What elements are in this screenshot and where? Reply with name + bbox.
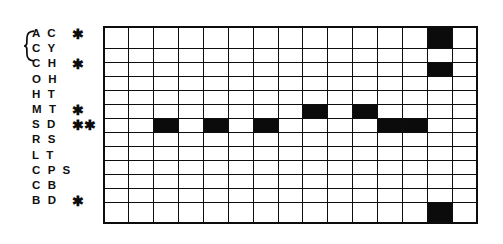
matrix-cell-empty[interactable] xyxy=(303,146,328,160)
matrix-cell-empty[interactable] xyxy=(328,202,353,223)
matrix-cell-empty[interactable] xyxy=(402,27,427,48)
matrix-cell-empty[interactable] xyxy=(253,132,278,146)
matrix-cell-empty[interactable] xyxy=(377,104,402,118)
matrix-cell-empty[interactable] xyxy=(427,48,452,62)
matrix-cell-empty[interactable] xyxy=(203,104,228,118)
matrix-cell-empty[interactable] xyxy=(303,118,328,132)
matrix-cell-empty[interactable] xyxy=(228,62,253,76)
matrix-cell-empty[interactable] xyxy=(228,146,253,160)
matrix-cell-empty[interactable] xyxy=(402,48,427,62)
matrix-cell-empty[interactable] xyxy=(104,174,129,188)
matrix-cell-empty[interactable] xyxy=(104,132,129,146)
matrix-cell-empty[interactable] xyxy=(129,104,154,118)
matrix-cell-empty[interactable] xyxy=(179,202,204,223)
matrix-cell-empty[interactable] xyxy=(228,174,253,188)
matrix-cell-empty[interactable] xyxy=(353,160,378,174)
matrix-cell-empty[interactable] xyxy=(353,76,378,90)
matrix-cell-empty[interactable] xyxy=(228,160,253,174)
matrix-cell-empty[interactable] xyxy=(353,132,378,146)
matrix-cell-empty[interactable] xyxy=(427,76,452,90)
matrix-cell-empty[interactable] xyxy=(253,104,278,118)
matrix-cell-empty[interactable] xyxy=(303,188,328,202)
matrix-cell-filled[interactable] xyxy=(427,202,452,223)
matrix-cell-empty[interactable] xyxy=(129,48,154,62)
matrix-cell-empty[interactable] xyxy=(278,48,303,62)
matrix-cell-empty[interactable] xyxy=(253,174,278,188)
matrix-cell-empty[interactable] xyxy=(402,146,427,160)
matrix-cell-filled[interactable] xyxy=(154,118,179,132)
matrix-cell-empty[interactable] xyxy=(278,202,303,223)
matrix-cell-empty[interactable] xyxy=(129,62,154,76)
matrix-cell-empty[interactable] xyxy=(377,188,402,202)
matrix-cell-empty[interactable] xyxy=(129,76,154,90)
matrix-cell-empty[interactable] xyxy=(303,160,328,174)
matrix-cell-empty[interactable] xyxy=(427,160,452,174)
matrix-cell-empty[interactable] xyxy=(154,48,179,62)
matrix-cell-empty[interactable] xyxy=(427,174,452,188)
matrix-cell-empty[interactable] xyxy=(427,146,452,160)
matrix-cell-empty[interactable] xyxy=(154,62,179,76)
matrix-cell-empty[interactable] xyxy=(427,104,452,118)
matrix-cell-empty[interactable] xyxy=(104,118,129,132)
matrix-cell-empty[interactable] xyxy=(154,104,179,118)
matrix-cell-empty[interactable] xyxy=(129,174,154,188)
matrix-cell-filled[interactable] xyxy=(427,62,452,76)
matrix-cell-empty[interactable] xyxy=(328,104,353,118)
matrix-cell-empty[interactable] xyxy=(353,62,378,76)
matrix-cell-empty[interactable] xyxy=(104,202,129,223)
matrix-cell-empty[interactable] xyxy=(452,174,477,188)
matrix-cell-empty[interactable] xyxy=(427,132,452,146)
matrix-cell-empty[interactable] xyxy=(303,174,328,188)
matrix-cell-empty[interactable] xyxy=(353,27,378,48)
matrix-cell-empty[interactable] xyxy=(179,76,204,90)
matrix-cell-empty[interactable] xyxy=(129,202,154,223)
matrix-cell-empty[interactable] xyxy=(452,48,477,62)
matrix-cell-empty[interactable] xyxy=(228,118,253,132)
matrix-cell-empty[interactable] xyxy=(179,90,204,104)
matrix-cell-empty[interactable] xyxy=(129,90,154,104)
matrix-cell-empty[interactable] xyxy=(377,90,402,104)
matrix-cell-empty[interactable] xyxy=(203,188,228,202)
matrix-cell-empty[interactable] xyxy=(303,90,328,104)
matrix-cell-empty[interactable] xyxy=(154,27,179,48)
matrix-cell-empty[interactable] xyxy=(278,62,303,76)
matrix-cell-empty[interactable] xyxy=(228,132,253,146)
matrix-cell-empty[interactable] xyxy=(203,132,228,146)
matrix-cell-empty[interactable] xyxy=(328,146,353,160)
matrix-cell-empty[interactable] xyxy=(377,132,402,146)
matrix-cell-empty[interactable] xyxy=(377,146,402,160)
matrix-cell-empty[interactable] xyxy=(104,104,129,118)
matrix-cell-empty[interactable] xyxy=(278,132,303,146)
matrix-cell-empty[interactable] xyxy=(179,62,204,76)
matrix-cell-empty[interactable] xyxy=(129,132,154,146)
matrix-cell-empty[interactable] xyxy=(452,104,477,118)
matrix-cell-empty[interactable] xyxy=(452,27,477,48)
matrix-cell-empty[interactable] xyxy=(253,27,278,48)
matrix-cell-empty[interactable] xyxy=(129,118,154,132)
matrix-cell-empty[interactable] xyxy=(154,188,179,202)
matrix-cell-empty[interactable] xyxy=(228,27,253,48)
matrix-cell-empty[interactable] xyxy=(278,104,303,118)
matrix-cell-empty[interactable] xyxy=(328,174,353,188)
matrix-cell-empty[interactable] xyxy=(203,160,228,174)
matrix-cell-empty[interactable] xyxy=(203,62,228,76)
matrix-cell-empty[interactable] xyxy=(129,146,154,160)
matrix-cell-empty[interactable] xyxy=(353,188,378,202)
matrix-cell-empty[interactable] xyxy=(278,76,303,90)
matrix-cell-empty[interactable] xyxy=(253,202,278,223)
matrix-cell-empty[interactable] xyxy=(129,160,154,174)
matrix-cell-empty[interactable] xyxy=(377,160,402,174)
matrix-cell-empty[interactable] xyxy=(303,48,328,62)
matrix-cell-empty[interactable] xyxy=(353,146,378,160)
matrix-cell-empty[interactable] xyxy=(402,188,427,202)
matrix-cell-empty[interactable] xyxy=(104,62,129,76)
matrix-cell-empty[interactable] xyxy=(402,202,427,223)
matrix-cell-empty[interactable] xyxy=(353,48,378,62)
matrix-cell-empty[interactable] xyxy=(203,48,228,62)
matrix-cell-empty[interactable] xyxy=(253,146,278,160)
matrix-cell-empty[interactable] xyxy=(154,146,179,160)
matrix-cell-empty[interactable] xyxy=(179,160,204,174)
matrix-cell-empty[interactable] xyxy=(328,118,353,132)
matrix-cell-empty[interactable] xyxy=(377,48,402,62)
matrix-cell-empty[interactable] xyxy=(203,90,228,104)
